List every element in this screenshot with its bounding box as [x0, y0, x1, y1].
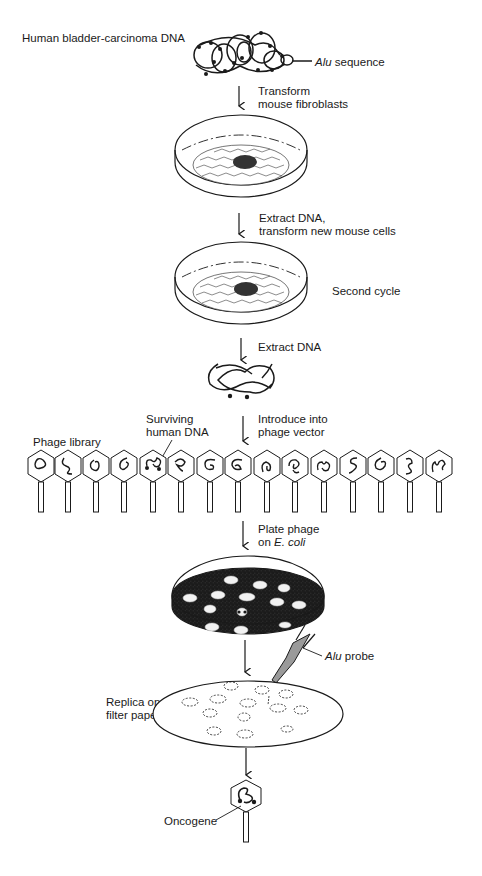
diagram-canvas	[0, 0, 482, 876]
petri-dish-1-icon	[175, 115, 307, 197]
oncogene-phage-icon	[231, 780, 261, 842]
oncogene-pointer	[216, 806, 241, 820]
dna-tangle-icon	[194, 31, 312, 76]
replica-filter-icon	[153, 681, 343, 747]
petri-dish-2-icon	[175, 242, 307, 324]
surviving-phage-icon	[140, 450, 166, 512]
plated-phage-dish-icon	[172, 556, 324, 634]
alu-probe-pipette-icon	[272, 625, 322, 683]
extracted-dna-icon	[209, 364, 274, 399]
phage-library-row	[28, 450, 452, 512]
